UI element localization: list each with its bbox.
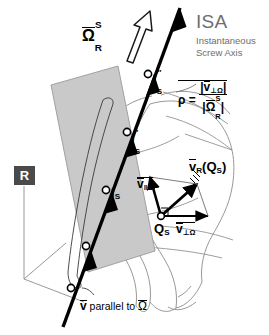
bottom-caption: v parallel to Ω: [80, 300, 147, 312]
v-parallel-symbol: v: [137, 178, 144, 190]
point-q-label: QS: [154, 222, 170, 237]
caption-vector-symbol: v: [80, 300, 87, 312]
denominator-sub: R: [215, 112, 220, 121]
marker-lower-2: [67, 284, 74, 291]
isa-subtitle-line2: Screw Axis: [196, 47, 242, 58]
v-resultant-label: vR(QS): [189, 160, 226, 175]
isa-title: ISA: [196, 12, 228, 31]
omega-subscript: R: [95, 42, 102, 53]
axis-point-label-is: IS: [111, 186, 120, 201]
caption-leader-right: [178, 286, 191, 297]
rho-numerator: |v⊥Ω|: [199, 81, 227, 94]
pitch-equation: ρ = |v⊥Ω| |ΩSR|: [178, 81, 227, 120]
v-resultant-paren-close: ): [222, 159, 226, 174]
caption-text: parallel to: [87, 300, 138, 312]
rho-fraction: |v⊥Ω| |ΩSR|: [199, 81, 227, 120]
v-parallel-subscript: ‖Ω: [144, 183, 154, 192]
is1-prime: ′: [136, 128, 138, 137]
reference-frame-badge: R: [14, 166, 35, 185]
rho-equals: =: [189, 93, 196, 107]
v-perp-symbol: v: [176, 223, 183, 235]
is2-sub: S: [157, 87, 162, 96]
is2-prime: ″: [157, 68, 161, 77]
marker-qs: [158, 213, 165, 220]
omega-superscript: S: [95, 19, 102, 30]
velocity-vectors: [150, 170, 208, 219]
isa-subtitle: Instantaneous Screw Axis: [196, 35, 256, 58]
rho-symbol: ρ: [178, 93, 185, 107]
axis-point-label-is-prime: I′S: [131, 128, 140, 156]
marker-lower-1: [82, 242, 89, 249]
numerator-sub: ⊥Ω: [210, 86, 223, 95]
v-resultant-arrow: [161, 184, 197, 216]
v-perp-subscript: ⊥Ω: [183, 228, 196, 237]
marker-is-prime: [123, 128, 130, 135]
rho-denominator: |ΩSR|: [199, 94, 227, 120]
v-resultant-argument: Q: [206, 159, 216, 174]
omega-symbol: Ω: [82, 28, 95, 44]
v-parallel-label: v‖Ω: [137, 178, 153, 191]
denominator-omega: Ω: [206, 101, 216, 113]
angular-velocity-arrow: [127, 11, 152, 63]
screw-plane: [51, 66, 155, 272]
caption-omega-symbol: Ω: [138, 300, 147, 312]
q-subscript: S: [164, 228, 169, 237]
marker-is: [102, 186, 109, 193]
v-resultant-symbol: v: [189, 160, 196, 173]
angular-velocity-label: ΩSR: [82, 20, 102, 53]
isa-subtitle-line1: Instantaneous: [196, 35, 256, 46]
v-perpendicular-label: v⊥Ω: [176, 223, 195, 236]
q-letter: Q: [154, 221, 164, 236]
numerator-v: v: [204, 81, 211, 93]
is1-sub: S: [135, 147, 140, 156]
caption-leader-line: [82, 288, 94, 295]
is0-sub: S: [115, 192, 120, 201]
denominator-sup: S: [216, 95, 221, 104]
isa-diagram: ISA Instantaneous Screw Axis ΩSR ρ = |v⊥…: [0, 0, 269, 335]
axis-point-label-is-double-prime: I″S: [153, 68, 162, 96]
marker-is-double-prime: [144, 70, 151, 77]
